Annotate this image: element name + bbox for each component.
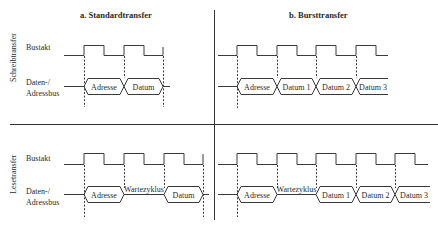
segment-label: Datum 3 bbox=[359, 83, 387, 92]
clock-waveform bbox=[218, 46, 388, 56]
segment-label: Datum 2 bbox=[322, 83, 350, 92]
signal-label-bus-read-1: Daten-/ bbox=[26, 187, 51, 196]
write-standard-waveform: Adresse Datum bbox=[64, 46, 170, 108]
timing-diagram-canvas: a. Standardtransfer b. Bursttransfer Sch… bbox=[0, 0, 438, 226]
clock-waveform bbox=[218, 154, 428, 165]
panel-title-standard: a. Standardtransfer bbox=[80, 10, 152, 20]
signal-label-clock-write: Bustakt bbox=[26, 43, 51, 52]
signal-label-bus-write-1: Daten-/ bbox=[26, 78, 51, 87]
bus-transfer-timing-diagram: a. Standardtransfer b. Bursttransfer Sch… bbox=[0, 0, 438, 226]
segment-label: Datum 3 bbox=[400, 191, 428, 200]
signal-label-bus-write-2: Adressbus bbox=[26, 89, 59, 98]
row-label-read: Lesetransfer bbox=[9, 154, 18, 194]
row-label-write: Schreibtransfer bbox=[9, 33, 18, 82]
segment-label: Adresse bbox=[244, 191, 270, 200]
wait-cycle-label: Wartezyklus bbox=[124, 185, 164, 194]
segment-label: Datum 2 bbox=[362, 191, 390, 200]
clock-waveform bbox=[64, 154, 203, 165]
read-standard-waveform: Adresse Wartezyklus Datum bbox=[64, 154, 209, 218]
read-burst-waveform: Adresse Wartezyklus Datum 1 Datum 2 Datu… bbox=[218, 154, 430, 218]
signal-label-bus-read-2: Adressbus bbox=[26, 198, 59, 207]
segment-label: Adresse bbox=[91, 191, 117, 200]
panel-title-burst: b. Bursttransfer bbox=[289, 10, 348, 20]
clock-waveform bbox=[64, 46, 163, 56]
segment-label: Adresse bbox=[244, 83, 270, 92]
signal-label-clock-read: Bustakt bbox=[26, 154, 51, 163]
wait-cycle-label: Wartezyklus bbox=[277, 185, 317, 194]
segment-label: Adresse bbox=[91, 83, 117, 92]
segment-label: Datum 1 bbox=[322, 191, 350, 200]
segment-label: Datum 1 bbox=[283, 83, 311, 92]
segment-label: Datum bbox=[173, 191, 196, 200]
write-burst-waveform: Adresse Datum 1 Datum 2 Datum 3 bbox=[218, 46, 388, 109]
segment-label: Datum bbox=[133, 83, 156, 92]
